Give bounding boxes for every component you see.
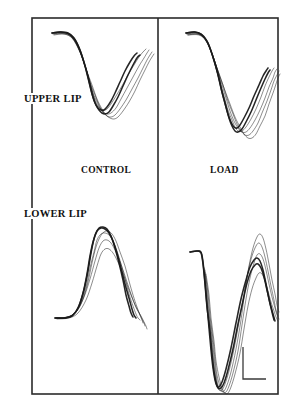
column-label-control: CONTROL bbox=[79, 165, 133, 175]
figure-background bbox=[0, 0, 306, 409]
kinematic-trace-figure bbox=[0, 0, 306, 409]
row-label-upper-lip: UPPER LIP bbox=[22, 93, 84, 104]
row-label-lower-lip: LOWER LIP bbox=[22, 208, 89, 219]
column-label-load: LOAD bbox=[208, 165, 241, 175]
